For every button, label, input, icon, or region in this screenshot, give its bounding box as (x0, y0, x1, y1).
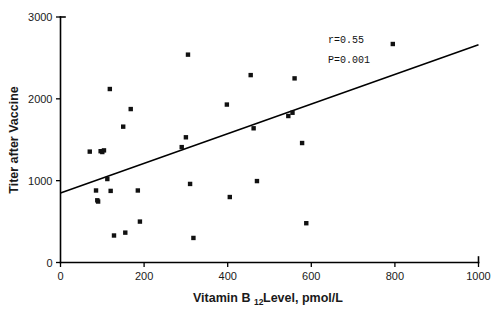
data-point (96, 199, 100, 203)
x-tick-label: 200 (135, 270, 153, 282)
data-point (94, 188, 98, 192)
y-tick-label: 3000 (28, 11, 52, 23)
y-tick-label: 1000 (28, 175, 52, 187)
data-point (188, 182, 192, 186)
x-axis-ticks: 02004006008001000 (57, 263, 490, 282)
x-tick-label: 0 (57, 270, 63, 282)
data-point (290, 111, 294, 115)
data-points-group (88, 42, 395, 240)
x-tick-label: 1000 (466, 270, 490, 282)
data-point (123, 230, 127, 234)
data-point (136, 188, 140, 192)
data-point (228, 195, 232, 199)
data-point (255, 179, 259, 183)
y-axis-title: Titer after Vaccine (7, 86, 21, 194)
y-axis-ticks: 0100020003000 (28, 11, 60, 269)
axes-group (61, 17, 479, 263)
statistics-annotations: r=0.55P=0.001 (328, 35, 370, 66)
data-point (121, 124, 125, 128)
data-point (180, 145, 184, 149)
data-point (292, 76, 296, 80)
data-point (138, 219, 142, 223)
data-point (186, 52, 190, 56)
scatter-plot-figure: 0100020003000 02004006008001000 r=0.55P=… (0, 0, 503, 315)
data-point (225, 102, 229, 106)
x-tick-label: 800 (386, 270, 404, 282)
data-point (102, 148, 106, 152)
data-point (248, 73, 252, 77)
annotation-pvalue: P=0.001 (328, 55, 370, 66)
data-point (286, 114, 290, 118)
x-axis-title-tail: Level, pmol/L (263, 291, 343, 305)
data-point (112, 233, 116, 237)
data-point (88, 149, 92, 153)
data-point (191, 236, 195, 240)
data-point (251, 126, 255, 130)
x-axis-title: Vitamin B 12 Level, pmol/L (193, 291, 343, 307)
y-tick-label: 0 (46, 257, 52, 269)
x-axis-title-main: Vitamin B (193, 291, 250, 305)
chart-canvas: 0100020003000 02004006008001000 r=0.55P=… (0, 0, 503, 315)
data-point (391, 42, 395, 46)
regression-line (61, 45, 479, 193)
data-point (304, 221, 308, 225)
y-tick-label: 2000 (28, 93, 52, 105)
data-point (108, 189, 112, 193)
data-point (129, 107, 133, 111)
data-point (184, 135, 188, 139)
annotation-correlation: r=0.55 (328, 35, 364, 46)
x-tick-label: 400 (219, 270, 237, 282)
data-point (108, 87, 112, 91)
x-tick-label: 600 (302, 270, 320, 282)
data-point (300, 141, 304, 145)
data-point (105, 177, 109, 181)
